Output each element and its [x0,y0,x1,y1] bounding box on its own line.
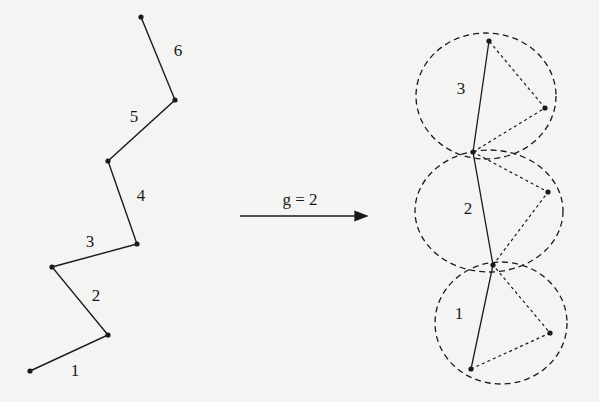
bead [547,330,552,335]
bead [172,97,177,102]
bead [486,38,491,43]
segment-label: 5 [130,107,139,126]
bead [490,262,495,267]
bead [470,149,475,154]
inner-bonds [471,265,550,369]
mapping-arrow: g = 2 [240,190,367,216]
blob-label: 3 [457,79,466,98]
inner-bonds [473,41,545,152]
blob-label: 1 [455,304,464,323]
chain-bonds [30,17,175,371]
bead [134,241,139,246]
bead [545,189,550,194]
bead [468,366,473,371]
bead [27,368,32,373]
segment-label: 4 [137,186,146,205]
blob-label: 2 [464,199,473,218]
segment-label: 3 [86,232,95,251]
bead [105,332,110,337]
coarse-grained-chain: 123 [415,33,567,384]
diagram-svg: 123456 g = 2 123 [0,0,599,402]
blob-boundary [435,262,567,384]
arrow-label: g = 2 [282,190,317,209]
segment-label: 2 [92,286,101,305]
bead [542,105,547,110]
blob-bonds [471,41,493,369]
coarse-graining-diagram: 123456 g = 2 123 [0,0,599,402]
blob-boundary [416,33,556,159]
segment-label: 1 [71,361,80,380]
inner-bonds [473,152,548,265]
segment-label: 6 [174,41,183,60]
bead [138,14,143,19]
bead [49,264,54,269]
original-chain: 123456 [27,14,182,380]
blob-boundary [415,150,563,272]
bead [105,158,110,163]
